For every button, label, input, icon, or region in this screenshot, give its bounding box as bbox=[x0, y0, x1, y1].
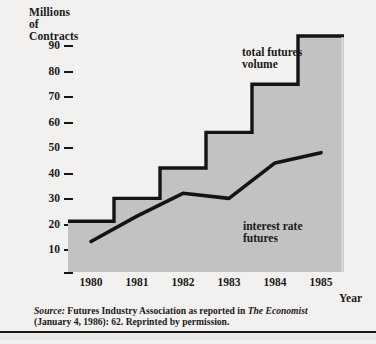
source-publication: The Economist bbox=[248, 305, 308, 316]
y-tick-80: 80 bbox=[29, 65, 73, 78]
y-tick-10: 10 bbox=[29, 243, 73, 256]
y-tick-label-10: 10 bbox=[49, 243, 61, 256]
y-tick-40: 40 bbox=[29, 167, 73, 180]
annotation-total-line-1: total futures bbox=[242, 46, 338, 58]
y-tick-50: 50 bbox=[29, 141, 73, 154]
annotation-irf-line-2: futures bbox=[243, 232, 333, 244]
y-tick-label-20: 20 bbox=[49, 218, 61, 231]
bottom-rule-shadow bbox=[0, 334, 376, 340]
y-tick-90: 90 bbox=[29, 39, 73, 52]
bottom-rule-divider bbox=[0, 331, 376, 333]
y-tick-label-80: 80 bbox=[49, 65, 61, 78]
y-tick-20: 20 bbox=[29, 218, 73, 231]
figure-futures-volume-chart: Millions of Contracts 90 80 70 60 50 40 … bbox=[0, 0, 376, 344]
y-tick-label-40: 40 bbox=[49, 167, 61, 180]
source-line-1: Source: Futures Industry Association as … bbox=[34, 305, 364, 316]
source-caption: Source: Futures Industry Association as … bbox=[34, 305, 364, 328]
y-tick-label-60: 60 bbox=[49, 116, 61, 129]
y-tick-60: 60 bbox=[29, 116, 73, 129]
y-tick-30: 30 bbox=[29, 192, 73, 205]
x-tick-label-1985: 1985 bbox=[294, 276, 348, 289]
y-tick-label-70: 70 bbox=[49, 90, 61, 103]
annotation-total-line-2: volume bbox=[242, 58, 338, 70]
source-line-1-text: Futures Industry Association as reported… bbox=[65, 305, 248, 316]
y-tick-70: 70 bbox=[29, 90, 73, 103]
x-axis-title: Year bbox=[339, 292, 362, 304]
y-tick-label-30: 30 bbox=[49, 192, 61, 205]
y-tick-label-90: 90 bbox=[49, 39, 61, 52]
source-line-2: (January 4, 1986): 62. Reprinted by perm… bbox=[34, 316, 364, 327]
y-tick-label-50: 50 bbox=[49, 141, 61, 154]
annotation-irf-line-1: interest rate bbox=[243, 220, 333, 232]
source-label: Source: bbox=[34, 305, 65, 316]
annotation-interest-rate-futures: interest rate futures bbox=[243, 220, 333, 245]
y-axis-title-line-1: Millions bbox=[29, 6, 119, 18]
annotation-total-futures-volume: total futures volume bbox=[242, 46, 338, 71]
